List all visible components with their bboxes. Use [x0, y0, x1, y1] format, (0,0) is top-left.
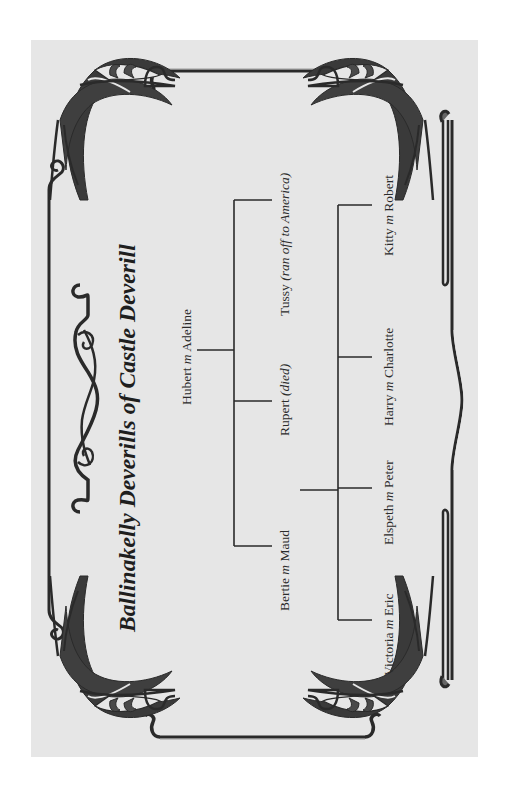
family-tree-connectors: [0, 0, 523, 796]
tree-node-elspeth: Elspeth m Peter: [382, 460, 396, 545]
tree-node-victoria: Victoria m Eric: [382, 594, 396, 676]
tree-node-bertie: Bertie m Maud: [278, 530, 292, 611]
tree-node-hubert: Hubert m Adeline: [180, 309, 194, 405]
tree-node-kitty: Kitty m Robert: [382, 175, 396, 256]
tree-node-rupert: Rupert (died): [278, 364, 292, 436]
tree-node-tussy: Tussy (ran off to America): [278, 173, 292, 316]
tree-node-harry: Harry m Charlotte: [382, 328, 396, 426]
